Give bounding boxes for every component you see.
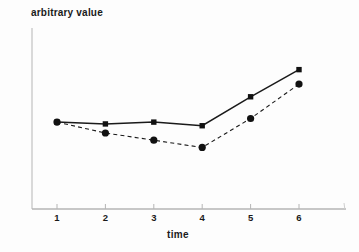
- marker-square: [248, 94, 253, 99]
- marker-circle: [53, 119, 60, 126]
- x-axis-title: time: [167, 229, 189, 240]
- x-axis-end-tick: [344, 203, 345, 209]
- marker-square: [200, 123, 205, 128]
- marker-circle: [102, 129, 109, 136]
- x-tick-label: 1: [47, 212, 67, 223]
- x-tick-label: 4: [192, 212, 212, 223]
- marker-circle: [247, 115, 254, 122]
- marker-square: [103, 121, 108, 126]
- x-tick-label: 3: [144, 212, 164, 223]
- x-tick-label: 2: [95, 212, 115, 223]
- series-dashed-circles-line: [57, 84, 299, 147]
- chart-figure: arbitrary value 123456 time: [0, 0, 359, 252]
- x-tick-label: 6: [289, 212, 309, 223]
- x-tick-label: 5: [241, 212, 261, 223]
- marker-square: [151, 119, 156, 124]
- marker-circle: [295, 81, 302, 88]
- marker-circle: [150, 137, 157, 144]
- marker-circle: [199, 144, 206, 151]
- marker-square: [296, 67, 301, 72]
- series-solid-squares-line: [57, 70, 299, 126]
